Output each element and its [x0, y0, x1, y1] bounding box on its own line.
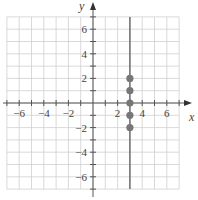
x-tick-label: 4 [139, 107, 145, 119]
coordinate-plane: −6−4−2246−6−4−2246 x y [0, 0, 198, 200]
data-point [126, 112, 133, 119]
x-tick-label: −4 [38, 107, 50, 119]
x-tick-label: −6 [13, 107, 25, 119]
data-point [126, 75, 133, 82]
y-tick-label: 4 [82, 48, 88, 60]
y-axis-label: y [78, 0, 85, 13]
y-tick-label: 6 [82, 23, 88, 35]
data-point [126, 124, 133, 131]
x-tick-label: −2 [63, 107, 75, 119]
x-axis-arrow-icon [184, 100, 192, 106]
x-tick-label: 6 [164, 107, 170, 119]
y-tick-label: −6 [75, 171, 87, 183]
x-axis-label: x [188, 110, 195, 124]
y-tick-label: 2 [82, 72, 88, 84]
x-tick-label: 2 [115, 107, 121, 119]
data-point [126, 87, 133, 94]
y-tick-label: −2 [75, 122, 87, 134]
y-axis-arrow-icon [90, 2, 96, 10]
data-point [126, 99, 133, 106]
y-tick-label: −4 [75, 146, 87, 158]
